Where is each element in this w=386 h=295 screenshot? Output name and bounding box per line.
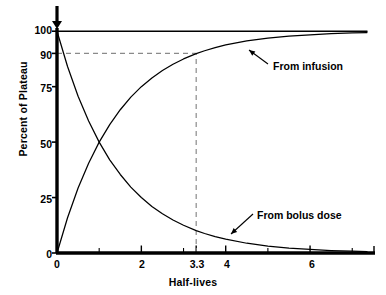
from-bolus-dose-arrow: [231, 214, 253, 234]
chart-figure: Percent of Plateau Half-lives 100 90 75 …: [0, 0, 386, 295]
dose-start-arrow: [52, 6, 62, 29]
dose-start-arrow-head: [52, 21, 62, 29]
from-infusion-arrow-head: [249, 50, 255, 56]
annotation-arrows: [52, 6, 268, 234]
curve-from-bolus-dose: [57, 31, 367, 251]
reference-guide-lines: [57, 53, 196, 253]
curve-from-infusion: [57, 33, 367, 253]
plot-canvas: [0, 0, 386, 295]
axis-lines: [56, 28, 375, 253]
from-infusion-arrow: [249, 50, 268, 64]
data-curves: [57, 31, 367, 253]
